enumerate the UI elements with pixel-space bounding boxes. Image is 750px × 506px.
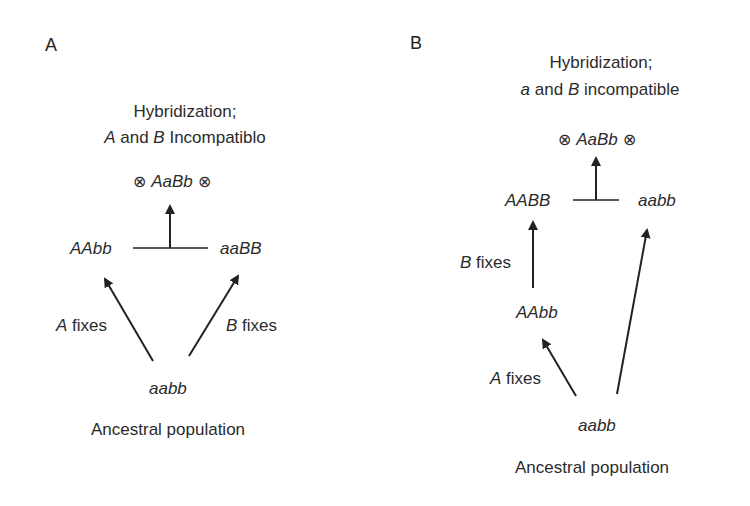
allele-b-label: B <box>568 80 579 99</box>
panel-b-title-line1: Hybridization; <box>550 54 653 71</box>
fixes-text: fixes <box>67 316 107 335</box>
incompatible-text: incompatible <box>579 80 679 99</box>
and-text: and <box>116 128 154 147</box>
panel-a-ancestor-genotype: aabb <box>149 380 187 397</box>
panel-b-upper-arrow-label: B fixes <box>460 254 511 271</box>
hybrid-genotype: AaBb <box>151 172 193 191</box>
panel-a-left-fix-arrow <box>105 279 153 361</box>
panel-a-title-line2: A and B Incompatiblo <box>104 129 266 146</box>
fixes-text: fixes <box>501 369 541 388</box>
panel-a-right-parent: aaBB <box>220 240 262 257</box>
incompatible-text: Incompatiblo <box>165 128 266 147</box>
sad-face-icon: ⊗ <box>133 173 146 190</box>
panel-b-ancestor-genotype: aabb <box>578 417 616 434</box>
panel-letter-a: A <box>45 36 57 54</box>
fixes-text: fixes <box>471 253 511 272</box>
panel-b-lower-arrow-label: A fixes <box>490 370 541 387</box>
panel-a-title-line1: Hybridization; <box>134 103 237 120</box>
fixes-text: fixes <box>237 316 277 335</box>
allele-a-label: A <box>104 128 115 147</box>
allele-b-label: B <box>153 128 164 147</box>
panel-b-intermediate-genotype: AAbb <box>516 304 558 321</box>
panel-a-ancestor-caption: Ancestral population <box>91 421 245 438</box>
panel-a-right-arrow-label: B fixes <box>226 317 277 334</box>
allele-b-label: B <box>226 316 237 335</box>
panel-a-left-arrow-label: A fixes <box>56 317 107 334</box>
allele-a-label: A <box>490 369 501 388</box>
sad-face-icon: ⊗ <box>623 131 636 148</box>
panel-b-left-parent: AABB <box>505 192 550 209</box>
panel-b-ancestor-caption: Ancestral population <box>515 459 669 476</box>
allele-a-label: A <box>56 316 67 335</box>
hybrid-genotype: AaBb <box>576 130 618 149</box>
and-text: and <box>530 80 568 99</box>
panel-b-long-arrow <box>617 230 647 394</box>
panel-b-right-parent: aabb <box>638 192 676 209</box>
panel-a-hybrid: ⊗ AaBb ⊗ <box>133 173 210 190</box>
panel-b-hybrid: ⊗ AaBb ⊗ <box>558 131 635 148</box>
panel-a-arrows <box>105 206 238 361</box>
panel-b-a-fix-arrow <box>543 340 576 396</box>
panel-letter-b: B <box>410 34 422 52</box>
panel-b-title-line2: a and B incompatible <box>521 81 680 98</box>
sad-face-icon: ⊗ <box>558 131 571 148</box>
allele-b-label: B <box>460 253 471 272</box>
panel-a-left-parent: AAbb <box>70 240 112 257</box>
sad-face-icon: ⊗ <box>198 173 211 190</box>
